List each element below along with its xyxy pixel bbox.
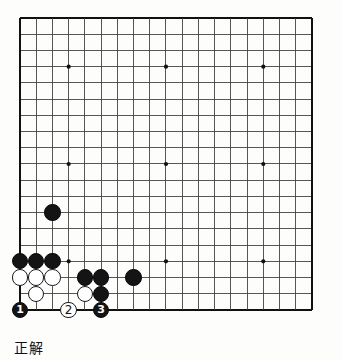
stone-layer: 123 <box>0 0 343 336</box>
black-stone[interactable] <box>125 269 141 285</box>
white-stone[interactable] <box>12 269 28 285</box>
black-stone[interactable] <box>28 253 44 269</box>
white-stone[interactable] <box>77 286 93 302</box>
black-stone[interactable] <box>44 204 60 220</box>
move-stone-2[interactable]: 2 <box>60 302 76 318</box>
black-stone[interactable] <box>12 253 28 269</box>
white-stone[interactable] <box>28 269 44 285</box>
white-stone[interactable] <box>44 269 60 285</box>
black-stone[interactable] <box>93 286 109 302</box>
move-stone-3[interactable]: 3 <box>93 302 109 318</box>
move-number-label: 3 <box>97 304 105 315</box>
black-stone[interactable] <box>44 253 60 269</box>
move-number-label: 1 <box>16 304 24 315</box>
white-stone[interactable] <box>28 286 44 302</box>
black-stone[interactable] <box>93 269 109 285</box>
go-diagram: 123 正解 <box>0 0 343 360</box>
go-board[interactable]: 123 <box>0 0 343 336</box>
move-number-label: 2 <box>65 304 73 316</box>
move-stone-1[interactable]: 1 <box>12 302 28 318</box>
diagram-caption: 正解 <box>14 337 44 357</box>
black-stone[interactable] <box>77 269 93 285</box>
